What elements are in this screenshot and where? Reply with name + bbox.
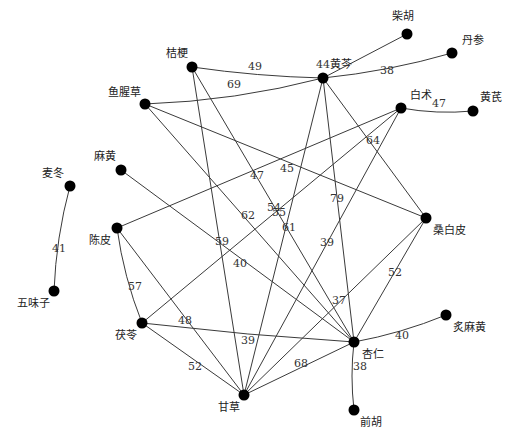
edge-weight-label: 61 [282, 221, 296, 234]
edge-weight-label: 79 [330, 192, 344, 205]
edge [142, 323, 244, 395]
herb-network-graph: 4438496947416479614562595547543940574839… [0, 0, 517, 440]
edge [352, 342, 354, 410]
edge-labels-layer: 4438496947416479614562595547543940574839… [52, 58, 446, 373]
edge-weight-label: 38 [353, 360, 367, 373]
edge-weight-label: 38 [380, 64, 394, 77]
graph-node [239, 390, 250, 401]
edge-weight-label: 54 [267, 201, 281, 214]
graph-node [349, 337, 360, 348]
edge [244, 78, 323, 395]
node-label: 麦冬 [42, 166, 64, 180]
node-label: 麻黄 [94, 149, 116, 163]
edge [117, 228, 244, 395]
edge [354, 218, 426, 342]
graph-node [140, 99, 151, 110]
edge-weight-label: 49 [248, 60, 262, 73]
graph-node [468, 106, 479, 117]
edge-weight-label: 39 [241, 334, 255, 347]
graph-node [349, 405, 360, 416]
edge [323, 34, 407, 78]
node-label: 杏仁 [362, 348, 384, 361]
node-label: 丹参 [462, 33, 484, 47]
edge-weight-label: 64 [366, 134, 380, 147]
edge-weight-label: 48 [178, 314, 192, 327]
node-label: 陈皮 [89, 233, 111, 247]
edge-weight-label: 47 [432, 97, 446, 110]
graph-node [441, 310, 452, 321]
node-label: 五味子 [17, 297, 50, 310]
graph-node [421, 213, 432, 224]
node-label: 前胡 [360, 415, 382, 429]
node-label: 桑白皮 [433, 223, 466, 237]
edge-weight-label: 59 [215, 235, 229, 248]
graph-node [65, 181, 76, 192]
node-label: 黄芩 [330, 57, 352, 71]
edge-weight-label: 69 [227, 78, 241, 91]
edge [54, 186, 70, 291]
node-label: 茯苓 [115, 328, 137, 342]
node-label: 甘草 [218, 401, 240, 414]
edge-weight-label: 39 [320, 236, 334, 249]
node-label: 鱼腥草 [108, 85, 141, 99]
edge-weight-label: 44 [316, 58, 330, 71]
edge-weight-label: 45 [280, 162, 294, 175]
edge-weight-label: 47 [250, 169, 264, 182]
node-label: 柴胡 [392, 9, 414, 23]
edge-weight-label: 52 [188, 360, 202, 373]
node-label: 白术 [410, 88, 432, 102]
edge-weight-label: 41 [52, 242, 66, 255]
graph-node [402, 29, 413, 40]
node-label: 黄芪 [480, 90, 502, 104]
node-label: 炙麻黄 [453, 320, 486, 334]
graph-node [396, 103, 407, 114]
edge [117, 228, 142, 323]
edge-weight-label: 57 [128, 280, 142, 293]
edge-weight-label: 62 [241, 209, 255, 222]
graph-node [137, 318, 148, 329]
graph-node [49, 286, 60, 297]
graph-node [447, 48, 458, 59]
edge-weight-label: 68 [294, 357, 308, 370]
edge-weight-label: 37 [332, 294, 346, 307]
graph-node [112, 223, 123, 234]
edge [192, 67, 244, 395]
edge [121, 170, 354, 342]
node-label: 桔梗 [166, 46, 188, 60]
graph-node [318, 73, 329, 84]
edge [117, 108, 401, 228]
edge-weight-label: 40 [395, 329, 409, 342]
graph-node [116, 165, 127, 176]
edge-weight-label: 52 [388, 266, 402, 279]
graph-node [187, 62, 198, 73]
edge-weight-label: 40 [233, 257, 247, 270]
